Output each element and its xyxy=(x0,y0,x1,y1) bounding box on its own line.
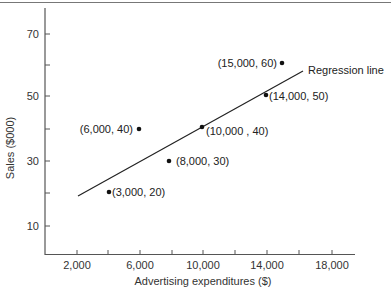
data-point xyxy=(167,159,172,164)
y-ticks xyxy=(45,34,50,226)
x-tick-14000: 14,000 xyxy=(250,259,284,271)
regression-line-label: Regression line xyxy=(308,64,384,76)
y-tick-10: 10 xyxy=(27,220,39,232)
point-label: (8,000, 30) xyxy=(176,155,229,167)
x-ticks xyxy=(77,250,332,254)
data-point xyxy=(200,125,205,130)
x-axis-title: Advertising expenditures ($) xyxy=(135,275,272,287)
x-tick-6000: 6,000 xyxy=(126,259,154,271)
y-tick-70: 70 xyxy=(27,28,39,40)
data-point xyxy=(137,127,142,132)
y-tick-50: 50 xyxy=(27,90,39,102)
y-tick-30: 30 xyxy=(27,155,39,167)
data-point xyxy=(280,61,285,66)
scatter-chart: 70 50 30 10 2,000 6,000 10,000 14,000 18… xyxy=(0,0,391,291)
data-point xyxy=(264,93,269,98)
x-tick-18000: 18,000 xyxy=(315,259,349,271)
point-label: (15,000, 60) xyxy=(218,57,277,69)
y-tick-labels: 70 50 30 10 xyxy=(27,28,39,232)
x-tick-10000: 10,000 xyxy=(186,259,220,271)
point-label: (3,000, 20) xyxy=(112,186,165,198)
data-point xyxy=(107,190,112,195)
x-tick-labels: 2,000 6,000 10,000 14,000 18,000 xyxy=(63,259,349,271)
point-label: (10,000 , 40) xyxy=(206,125,268,137)
x-tick-2000: 2,000 xyxy=(63,259,91,271)
point-label: (6,000, 40) xyxy=(80,123,133,135)
y-axis-title: Sales ($000) xyxy=(4,117,16,179)
point-label: (14,000, 50) xyxy=(269,90,328,102)
